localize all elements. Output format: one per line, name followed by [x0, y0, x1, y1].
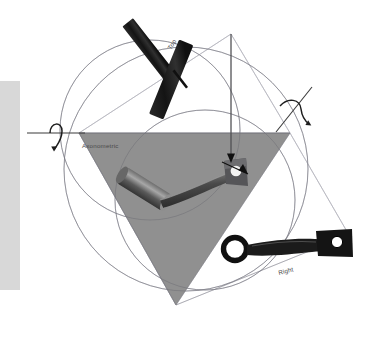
rotate-handle-right[interactable]	[276, 87, 312, 132]
object-top-view[interactable]	[97, 0, 218, 124]
view-orientation-widget[interactable]: Top Axonometric Right	[0, 0, 372, 338]
label-axonometric[interactable]: Axonometric	[82, 142, 119, 149]
rotate-axis-diagonal	[276, 87, 312, 132]
label-right[interactable]: Right	[278, 265, 295, 276]
trackball-canvas[interactable]: Top Axonometric Right	[0, 0, 372, 338]
rotate-handle-left[interactable]	[27, 124, 85, 151]
rotate-arrow-right	[280, 100, 309, 124]
axonometric-plane-triangle[interactable]	[79, 133, 290, 305]
